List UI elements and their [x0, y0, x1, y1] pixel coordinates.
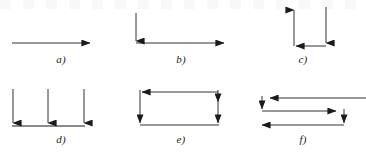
diagram-d-graphic: [0, 84, 122, 134]
diagram-panel-a: a): [0, 6, 122, 54]
diagram-panel-c: c): [240, 2, 366, 54]
panel-label-b: b): [122, 54, 240, 65]
diagram-panel-d: d): [0, 84, 122, 134]
diagram-panel-f: f): [240, 84, 366, 134]
diagram-panel-b: b): [122, 6, 240, 54]
panel-label-c: c): [240, 54, 366, 65]
panel-label-e: e): [122, 134, 240, 145]
diagram-panel-e: e): [122, 84, 240, 134]
panel-label-f: f): [240, 134, 366, 145]
panel-label-a: a): [0, 54, 122, 65]
diagram-c-graphic: [240, 2, 366, 54]
diagram-f-graphic: [240, 84, 366, 134]
figure-sheet: a) b): [0, 0, 366, 165]
diagram-b-graphic: [122, 6, 240, 54]
panel-label-d: d): [0, 134, 122, 145]
diagram-a-graphic: [0, 6, 122, 54]
diagram-e-graphic: [122, 84, 240, 134]
